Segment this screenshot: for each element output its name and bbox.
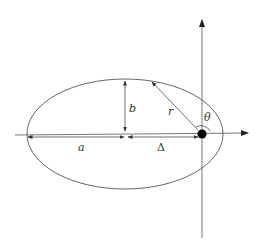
label-a: a bbox=[78, 141, 85, 154]
label-r: r bbox=[168, 105, 174, 118]
label-b: b bbox=[129, 102, 136, 115]
r-radius bbox=[152, 82, 198, 130]
label-delta: Δ bbox=[157, 141, 165, 154]
x-axis bbox=[15, 133, 248, 135]
focus-point bbox=[198, 130, 207, 139]
label-theta: θ bbox=[204, 111, 211, 124]
ellipse-diagram: a b r θ Δ bbox=[0, 0, 260, 249]
